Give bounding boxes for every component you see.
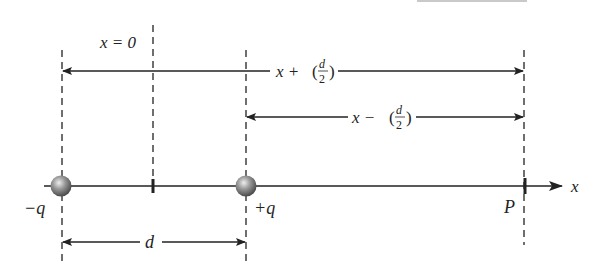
dipole-diagram: x + ( d 2 ) x − ( d 2 ) x = 0 x −q +q P …: [0, 0, 607, 273]
paren-open: (: [389, 108, 395, 127]
label-separation: d: [145, 232, 155, 252]
label-pos-charge: +q: [254, 198, 275, 218]
dashed-guides: [62, 25, 524, 262]
axis-label: x: [570, 177, 579, 196]
frac-num: d: [319, 57, 326, 71]
frac-num: d: [396, 103, 403, 117]
paren-close: ): [329, 62, 335, 81]
label-neg-charge: −q: [24, 198, 45, 218]
label-origin: x = 0: [99, 33, 137, 52]
frac-den: 2: [396, 118, 402, 132]
positive-charge: [236, 176, 257, 197]
frac-den: 2: [319, 72, 325, 86]
paren-close: ): [406, 108, 412, 127]
dimension-x-minus-half-d: x − ( d 2 ): [247, 103, 523, 132]
paren-open: (: [312, 62, 318, 81]
label-point-p: P: [503, 197, 515, 217]
label-x-minus: x −: [351, 108, 375, 127]
negative-charge: [51, 176, 72, 197]
label-x-plus: x +: [275, 62, 299, 81]
dimension-x-plus-half-d: x + ( d 2 ): [63, 57, 523, 86]
dimension-d: d: [63, 232, 245, 252]
